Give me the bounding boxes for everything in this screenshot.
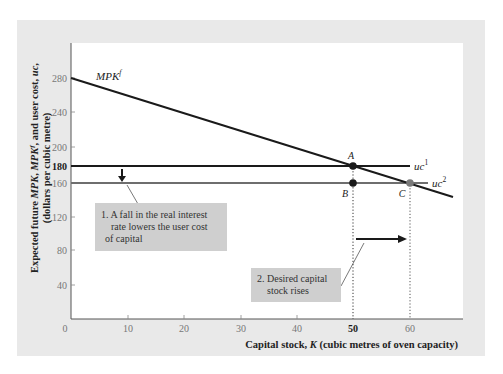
x-tick-label: 40 (292, 323, 302, 334)
note2-line1: 2. Desired capital (257, 273, 335, 285)
point-a (349, 162, 357, 170)
uc1-label: uc1 (414, 158, 428, 172)
y-tick-label: 80 (57, 245, 67, 256)
y-tick-label: 40 (57, 280, 67, 291)
leader-line-note1 (127, 185, 138, 204)
x-tick-label: 60 (405, 323, 415, 334)
note1-line2: rate lowers the user cost (101, 221, 221, 233)
point-a-label: A (347, 150, 355, 161)
down-arrow-icon (118, 169, 126, 182)
point-b (349, 179, 357, 187)
leader-line-note2 (341, 243, 364, 286)
y-tick-label: 180 (52, 161, 67, 172)
y-axis-title: Expected future MPK, MPKf, and user cost… (28, 63, 53, 273)
annotation-note-2: 2. Desired capital stock rises (251, 268, 341, 302)
uc2-label: uc2 (432, 175, 446, 189)
y-tick-label: 240 (52, 107, 67, 118)
mpk-f-line (71, 78, 453, 197)
x-tick-label: 20 (179, 323, 189, 334)
svg-text:(dollars per cubic metre): (dollars per cubic metre) (41, 112, 53, 223)
y-tick-label: 120 (52, 212, 67, 223)
x-tick-label: 30 (236, 323, 246, 334)
point-c (406, 179, 414, 187)
chart: 280 240 200 180 160 120 80 40 0 10 20 30… (0, 0, 503, 374)
svg-text:Expected future MPK, MPKf, and: Expected future MPK, MPKf, and user cost… (28, 63, 40, 273)
x-ticks (128, 315, 297, 319)
x-tick-label: 10 (123, 323, 133, 334)
mpk-f-label: MPKf (95, 68, 122, 82)
point-c-label: C (399, 188, 406, 199)
right-arrow-icon (356, 235, 407, 243)
y-ticks (71, 78, 75, 285)
annotation-note-1: 1. A fall in the real interest rate lowe… (95, 203, 227, 251)
x-axis-title: Capital stock, K (cubic metres of oven c… (245, 339, 458, 351)
y-tick-label: 160 (52, 178, 67, 189)
note2-line2: stock rises (257, 285, 335, 297)
x-tick-label: 0 (63, 323, 68, 334)
point-b-label: B (342, 188, 348, 199)
note1-line3: of capital (101, 233, 221, 245)
x-tick-label: 50 (348, 323, 358, 334)
y-tick-label: 280 (52, 73, 67, 84)
y-tick-label: 200 (52, 142, 67, 153)
note1-line1: 1. A fall in the real interest (101, 209, 221, 221)
